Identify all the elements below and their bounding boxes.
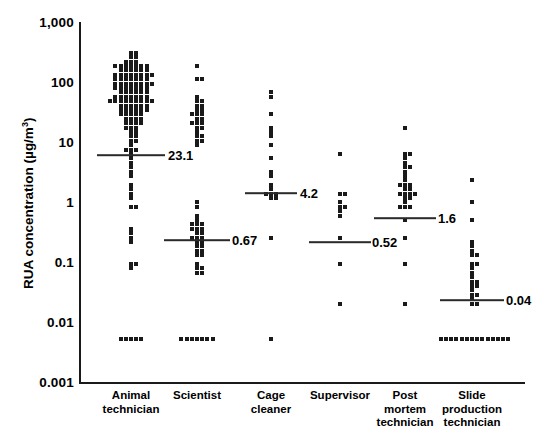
data-point xyxy=(129,60,133,64)
data-point xyxy=(129,187,133,191)
data-point xyxy=(124,82,128,86)
data-point xyxy=(403,205,407,209)
data-point xyxy=(200,337,204,341)
data-point xyxy=(124,337,128,341)
geometric-mean-line xyxy=(440,299,504,301)
data-point xyxy=(449,337,453,341)
data-point xyxy=(195,271,199,275)
data-point xyxy=(119,112,123,116)
data-point xyxy=(134,60,138,64)
data-point xyxy=(338,192,342,196)
x-category-label-line: technician xyxy=(88,403,174,417)
data-point xyxy=(134,51,138,55)
data-point xyxy=(129,130,133,134)
data-point xyxy=(134,205,138,209)
data-point xyxy=(398,183,402,187)
data-point xyxy=(139,99,143,103)
data-point xyxy=(470,240,474,244)
data-point xyxy=(338,302,342,306)
data-point xyxy=(129,51,133,55)
data-point xyxy=(486,337,490,341)
data-point xyxy=(195,108,199,112)
data-point xyxy=(124,77,128,81)
data-point xyxy=(129,148,133,152)
x-axis-line xyxy=(79,382,525,384)
data-point xyxy=(403,170,407,174)
data-point xyxy=(413,192,417,196)
data-point xyxy=(129,112,133,116)
data-point xyxy=(119,86,123,90)
data-point xyxy=(470,244,474,248)
data-point xyxy=(205,337,209,341)
data-point xyxy=(480,337,484,341)
data-point xyxy=(338,236,342,240)
data-point xyxy=(129,104,133,108)
data-point xyxy=(195,231,199,235)
data-point xyxy=(134,55,138,59)
data-point xyxy=(200,112,204,116)
data-point xyxy=(139,82,143,86)
y-tick-label-10: 10 xyxy=(0,135,74,150)
data-point xyxy=(195,130,199,134)
data-point xyxy=(190,227,194,231)
data-point xyxy=(195,253,199,257)
data-point xyxy=(269,174,273,178)
data-point xyxy=(119,337,123,341)
data-point xyxy=(200,266,204,270)
data-point xyxy=(129,95,133,99)
data-point xyxy=(124,126,128,130)
data-point xyxy=(195,205,199,209)
data-point xyxy=(134,108,138,112)
data-point xyxy=(439,337,443,341)
data-point xyxy=(470,200,474,204)
data-point xyxy=(134,68,138,72)
data-point xyxy=(139,121,143,125)
data-point xyxy=(269,143,273,147)
data-point xyxy=(124,104,128,108)
data-point xyxy=(139,64,143,68)
data-point xyxy=(129,174,133,178)
data-point xyxy=(269,187,273,191)
data-point xyxy=(195,222,199,226)
data-point xyxy=(119,73,123,77)
data-point xyxy=(398,205,402,209)
data-point xyxy=(124,112,128,116)
data-point xyxy=(195,218,199,222)
data-point xyxy=(134,86,138,90)
data-point xyxy=(470,249,474,253)
data-point xyxy=(269,183,273,187)
data-point xyxy=(129,68,133,72)
geometric-mean-label: 1.6 xyxy=(438,211,456,226)
data-point xyxy=(338,152,342,156)
data-point xyxy=(269,156,273,160)
data-point xyxy=(195,126,199,130)
data-point xyxy=(129,227,133,231)
data-point xyxy=(195,200,199,204)
data-point xyxy=(108,99,112,103)
data-point xyxy=(200,134,204,138)
data-point xyxy=(124,108,128,112)
data-point xyxy=(200,126,204,130)
data-point xyxy=(195,121,199,125)
data-point xyxy=(139,77,143,81)
data-point xyxy=(113,64,117,68)
data-point xyxy=(470,262,474,266)
data-point xyxy=(403,236,407,240)
data-point xyxy=(150,99,154,103)
data-point xyxy=(470,271,474,275)
data-point xyxy=(506,337,510,341)
data-point xyxy=(150,73,154,77)
data-point xyxy=(470,178,474,182)
data-point xyxy=(129,126,133,130)
data-point xyxy=(190,337,194,341)
data-point xyxy=(134,121,138,125)
data-point xyxy=(200,99,204,103)
data-point xyxy=(129,77,133,81)
data-point xyxy=(200,271,204,275)
data-point xyxy=(129,121,133,125)
data-point xyxy=(470,284,474,288)
data-point xyxy=(129,99,133,103)
data-point xyxy=(200,227,204,231)
data-point xyxy=(134,117,138,121)
data-point xyxy=(475,262,479,266)
